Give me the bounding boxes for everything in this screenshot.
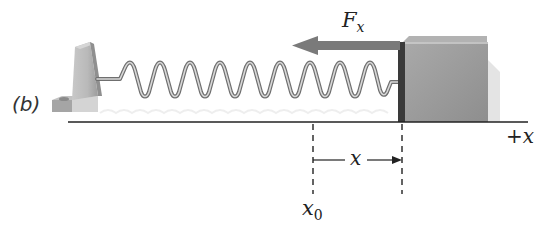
block-mass [398, 36, 500, 122]
force-symbol: F [342, 8, 357, 32]
axis-direction-label: +x [506, 124, 534, 148]
force-subscript: x [357, 19, 365, 35]
origin-label: x0 [302, 196, 323, 223]
spring [97, 63, 400, 97]
panel-label: (b) [12, 92, 40, 116]
spring-mass-diagram: (b) Fx +x x x0 [0, 0, 548, 236]
displacement-label: x [350, 146, 361, 170]
wall-anchor [52, 42, 102, 112]
force-arrow [292, 36, 400, 55]
diagram-canvas [0, 0, 548, 236]
origin-symbol: x [302, 196, 314, 220]
force-label: Fx [342, 8, 364, 35]
spring-shadow [100, 110, 388, 113]
origin-subscript: 0 [314, 207, 323, 223]
